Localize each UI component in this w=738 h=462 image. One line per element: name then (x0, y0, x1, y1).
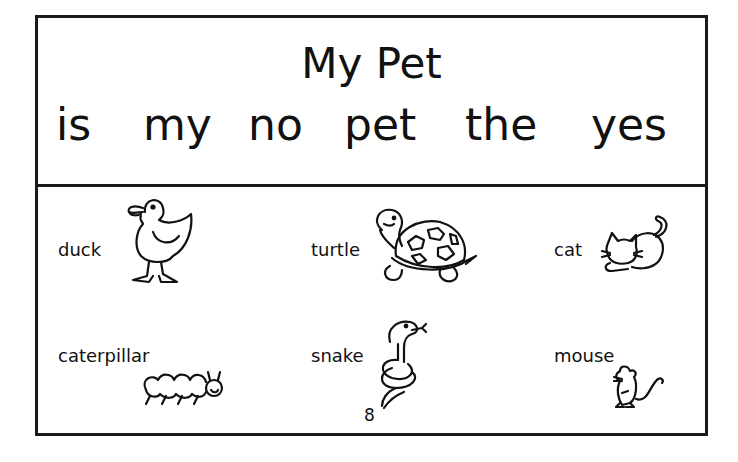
page-number: 8 (364, 405, 375, 425)
sight-word-list: is my no pet the yes (38, 98, 705, 158)
sight-word: the (465, 98, 537, 152)
animal-label-mouse: mouse (554, 345, 614, 367)
duck-icon (123, 190, 193, 290)
caterpillar-icon (138, 368, 228, 408)
mouse-icon (610, 363, 670, 413)
worksheet: My Pet is my no pet the yes duck turtle … (35, 15, 708, 436)
sight-word: yes (591, 98, 667, 152)
animal-label-turtle: turtle (311, 239, 360, 261)
sight-word: is (56, 98, 91, 152)
cat-icon (598, 213, 678, 283)
page-title: My Pet (38, 40, 705, 88)
animal-label-snake: snake (311, 345, 364, 367)
animal-label-cat: cat (554, 239, 582, 261)
sight-word: my (143, 98, 212, 152)
sight-word: no (248, 98, 303, 152)
header-panel: My Pet is my no pet the yes (38, 18, 705, 187)
turtle-icon (368, 208, 478, 288)
sight-word: pet (344, 98, 416, 152)
animal-label-duck: duck (58, 239, 101, 261)
snake-icon (376, 308, 456, 408)
animal-label-caterpillar: caterpillar (58, 345, 149, 367)
